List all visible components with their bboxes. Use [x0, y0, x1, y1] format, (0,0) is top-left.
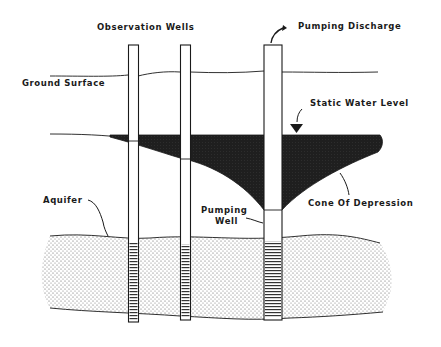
- static-water-level-triangle-icon: [290, 124, 303, 133]
- observation-wells-label: Observation Wells: [97, 22, 194, 32]
- discharge-arrow: [271, 28, 283, 43]
- static-water-level-label: Static Water Level: [310, 98, 409, 108]
- aquifer-layer: [42, 235, 392, 320]
- observation-well-2: [181, 45, 191, 320]
- ground-surface-label: Ground Surface: [22, 78, 105, 88]
- aquifer-leader: [88, 200, 108, 236]
- cone-of-depression-diagram: Observation Wells Pumping Discharge Grou…: [0, 0, 441, 347]
- pumping-well-label-line1: Pumping: [201, 205, 247, 215]
- cone-of-depression-label: Cone Of Depression: [308, 198, 413, 208]
- observation-well-1: [129, 45, 139, 322]
- aquifer-label: Aquifer: [43, 195, 83, 205]
- cone-leader: [340, 173, 349, 195]
- pumping-well-leader: [246, 218, 263, 223]
- pumping-well-label-line2: Well: [215, 216, 238, 226]
- ground-surface-line: [50, 71, 378, 76]
- pumping-well: [264, 45, 282, 320]
- discharge-arrowhead: [282, 25, 287, 31]
- static-level-leader: [297, 109, 302, 122]
- pumping-discharge-label: Pumping Discharge: [298, 21, 401, 31]
